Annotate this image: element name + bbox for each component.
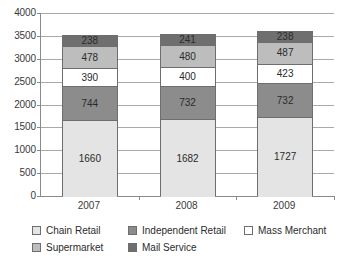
bar-segment-value: 732 [277, 96, 294, 106]
y-axis-tick [37, 59, 41, 60]
bar-segment[interactable]: 732 [161, 87, 215, 120]
y-axis-tick [37, 127, 41, 128]
bar-stack[interactable]: 2414804007321682 [160, 34, 216, 196]
plot-wrapper: 40003500300025002000150010005000 2384783… [0, 0, 344, 212]
y-axis-tick [37, 82, 41, 83]
x-axis-tick [139, 196, 140, 200]
legend-swatch-icon [128, 243, 137, 252]
x-axis-category-label: 2008 [157, 200, 217, 211]
bar-segment-value: 1660 [79, 154, 101, 164]
bar-segment[interactable]: 732 [258, 84, 312, 117]
legend-swatch-icon [244, 226, 253, 235]
y-axis-tick [37, 150, 41, 151]
bar-segment-value: 732 [179, 98, 196, 108]
bar-segment[interactable]: 238 [63, 36, 117, 47]
x-axis-tick [236, 196, 237, 200]
legend-label: Chain Retail [46, 225, 100, 236]
legend-item[interactable]: Mail Service [128, 239, 196, 255]
bar-group[interactable]: 2384874237321727 [257, 13, 313, 196]
bar-group[interactable]: 2384783907441660 [62, 13, 118, 196]
bar-segment[interactable]: 1660 [63, 121, 117, 197]
bar-segment-value: 478 [81, 53, 98, 63]
legend-swatch-icon [32, 243, 41, 252]
plot-area: 2384783907441660241480400732168223848742… [40, 13, 334, 197]
bar-segment[interactable]: 1682 [161, 120, 215, 197]
y-axis-tick-label: 1000 [2, 145, 36, 155]
y-axis-tick-label: 3500 [2, 31, 36, 41]
bar-segment[interactable]: 238 [258, 32, 312, 43]
y-axis-tick-label: 3000 [2, 54, 36, 64]
bar-segment-value: 238 [81, 36, 98, 46]
legend-label: Supermarket [46, 242, 103, 253]
bar-segment[interactable]: 480 [161, 46, 215, 68]
legend-row: Chain RetailIndependent RetailMass Merch… [0, 222, 344, 238]
legend-label: Independent Retail [142, 225, 226, 236]
y-axis-tick [37, 36, 41, 37]
y-axis-tick [37, 196, 41, 197]
bar-group[interactable]: 2414804007321682 [160, 13, 216, 196]
bar-segment-value: 1682 [176, 154, 198, 164]
x-axis-category-label: 2007 [59, 200, 119, 211]
y-axis-tick-label: 1500 [2, 122, 36, 132]
y-axis-tick [37, 173, 41, 174]
bar-segment[interactable]: 390 [63, 69, 117, 87]
bar-segment-value: 480 [179, 52, 196, 62]
y-axis-tick [37, 13, 41, 14]
bar-segment-value: 241 [179, 35, 196, 45]
legend-swatch-icon [32, 226, 41, 235]
stacked-bar-chart: 40003500300025002000150010005000 2384783… [0, 0, 344, 266]
legend-swatch-icon [128, 226, 137, 235]
y-axis-tick-label: 0 [2, 191, 36, 201]
bar-segment-value: 400 [179, 72, 196, 82]
bar-segment[interactable]: 478 [63, 47, 117, 69]
bar-segment-value: 1727 [274, 152, 296, 162]
bar-segment[interactable]: 241 [161, 35, 215, 46]
bar-segment[interactable]: 423 [258, 65, 312, 84]
bar-segment[interactable]: 487 [258, 43, 312, 65]
bar-segment-value: 744 [81, 99, 98, 109]
legend-item[interactable]: Supermarket [32, 239, 103, 255]
y-axis-tick [37, 105, 41, 106]
bar-segment-value: 390 [81, 73, 98, 83]
bar-segment-value: 238 [277, 32, 294, 42]
x-axis-tick [334, 196, 335, 200]
legend-item[interactable]: Independent Retail [128, 222, 226, 238]
bar-segment[interactable]: 1727 [258, 118, 312, 197]
y-axis: 40003500300025002000150010005000 [0, 0, 36, 212]
y-axis-tick-label: 500 [2, 168, 36, 178]
legend-label: Mail Service [142, 242, 196, 253]
y-axis-tick-label: 2000 [2, 100, 36, 110]
bar-segment-value: 423 [277, 69, 294, 79]
legend-row: SupermarketMail Service [0, 239, 344, 255]
bar-segment[interactable]: 400 [161, 68, 215, 86]
legend-item[interactable]: Chain Retail [32, 222, 100, 238]
bar-segment-value: 487 [277, 48, 294, 58]
bar-segment[interactable]: 744 [63, 87, 117, 121]
bar-stack[interactable]: 2384874237321727 [257, 31, 313, 196]
legend-label: Mass Merchant [258, 225, 326, 236]
legend-item[interactable]: Mass Merchant [244, 222, 326, 238]
y-axis-tick-label: 2500 [2, 77, 36, 87]
y-axis-tick-label: 4000 [2, 8, 36, 18]
chart-legend: Chain RetailIndependent RetailMass Merch… [0, 222, 344, 266]
x-axis-category-label: 2009 [254, 200, 314, 211]
bar-stack[interactable]: 2384783907441660 [62, 35, 118, 196]
